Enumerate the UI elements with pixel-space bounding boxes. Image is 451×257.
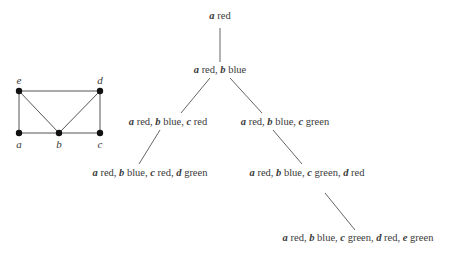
tree-node-n2: a red, b blue — [194, 64, 247, 75]
graph-vertices: edabc — [16, 74, 103, 150]
tree-edge-n4-n6 — [273, 130, 302, 164]
tree-edge-n6-n7 — [325, 193, 355, 230]
tree-edge-n2-n3 — [181, 78, 210, 113]
color-value: blue — [226, 64, 247, 75]
color-value: blue, — [273, 116, 299, 127]
tree-node-n6: a red, b blue, c green, d red — [250, 167, 366, 178]
color-value: red, — [98, 167, 119, 178]
color-value: red — [215, 10, 232, 21]
color-value: green — [182, 167, 209, 178]
color-value: blue, — [281, 167, 307, 178]
color-value: red — [348, 167, 365, 178]
color-value: red, — [255, 167, 276, 178]
tree-node-n3: a red, b blue, c red — [129, 116, 208, 127]
tree-edge-n3-n5 — [139, 130, 160, 164]
color-value: red, — [199, 64, 220, 75]
vertex-label-b: b — [56, 138, 62, 150]
tree-node-n5: a red, b blue, c red, d green — [93, 167, 209, 178]
graph-edges — [19, 91, 100, 133]
vertex-c — [97, 130, 103, 136]
color-value: blue, — [124, 167, 150, 178]
tree-nodes: a reda red, b bluea red, b blue, c reda … — [93, 10, 435, 243]
vertex-d — [97, 88, 103, 94]
color-value: green — [303, 116, 330, 127]
graph-coloring-backtracking-diagram: edabc a reda red, b bluea red, b blue, c… — [0, 0, 451, 257]
color-value: green, — [345, 232, 376, 243]
vertex-b — [56, 130, 62, 136]
color-value: red, — [134, 116, 155, 127]
vertex-a — [16, 130, 22, 136]
color-value: green — [407, 232, 434, 243]
tree-node-n4: a red, b blue, c green — [241, 116, 330, 127]
color-value: green, — [312, 167, 343, 178]
tree-edges — [139, 28, 355, 230]
color-value: red, — [288, 232, 309, 243]
graph-edge-eb — [19, 91, 59, 133]
color-value: blue, — [314, 232, 340, 243]
vertex-label-a: a — [16, 138, 22, 150]
graph-edge-bd — [59, 91, 100, 133]
color-value: red, — [381, 232, 402, 243]
color-value: red, — [246, 116, 267, 127]
tree-node-n7: a red, b blue, c green, d red, e green — [283, 232, 435, 243]
tree-node-n1: a red — [209, 10, 231, 21]
color-value: red — [191, 116, 208, 127]
tree-edge-n2-n4 — [230, 78, 262, 113]
vertex-e — [16, 88, 22, 94]
vertex-label-c: c — [98, 138, 103, 150]
vertex-label-d: d — [97, 74, 103, 86]
color-value: red, — [155, 167, 176, 178]
color-value: blue, — [161, 116, 187, 127]
vertex-label-e: e — [17, 74, 22, 86]
